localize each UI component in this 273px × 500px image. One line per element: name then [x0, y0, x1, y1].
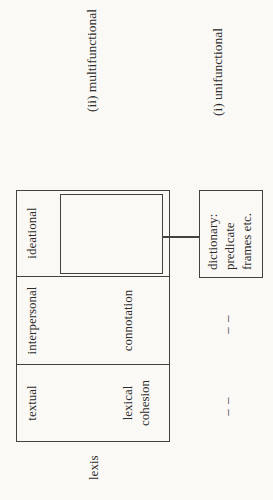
dictionary-box: dictionary: predicate frames etc.	[199, 190, 263, 278]
column-header-textual: textual	[17, 365, 40, 441]
annotation-unifunctional: (i) unifunctional	[210, 28, 226, 116]
column-header-ideational: ideational	[17, 190, 40, 276]
dictionary-box-line: frames etc.	[238, 191, 255, 270]
lexis-functions-box: textual lexical cohesion interpersonal c…	[16, 190, 170, 442]
dictionary-box-line: predicate	[221, 191, 238, 270]
column-header-interpersonal: interpersonal	[17, 277, 40, 364]
placeholder-dashes-interpersonal: – –	[219, 313, 235, 335]
denotation-box	[60, 194, 163, 274]
rotated-figure-canvas: lexis textual lexical cohesion interpers…	[0, 0, 273, 500]
sublabel-connotation: connotation	[119, 277, 136, 364]
annotation-multifunctional: (ii) multifunctional	[84, 9, 100, 112]
column-textual: textual lexical cohesion	[17, 365, 169, 441]
column-interpersonal: interpersonal connotation	[17, 277, 169, 364]
dictionary-box-line: dictionary:	[204, 191, 221, 270]
denotation-dictionary-connector-line	[162, 237, 200, 239]
placeholder-dashes-textual: – –	[219, 395, 235, 417]
lexis-row-label: lexis	[86, 455, 102, 480]
scanned-page: lexis textual lexical cohesion interpers…	[0, 0, 273, 500]
sublabel-lexical-cohesion: lexical cohesion	[119, 365, 153, 441]
